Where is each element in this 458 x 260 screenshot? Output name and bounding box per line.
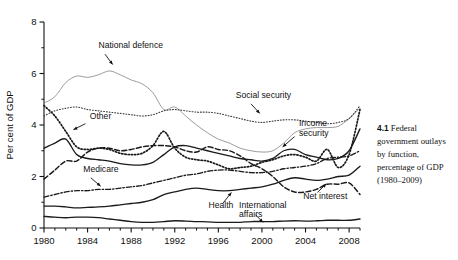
series-annotation-medicare: Medicare	[83, 164, 119, 174]
y-tick-label: 2	[31, 171, 36, 182]
y-tick-label: 0	[31, 222, 36, 233]
series-annotation-international-affairs: Internationalaffairs	[239, 200, 286, 219]
x-tick-label: 1992	[164, 235, 185, 246]
series-line-international-affairs	[44, 216, 360, 222]
series-annotation-national-defence: National defence	[98, 40, 163, 50]
chart-plot-area: 0246819801984198819921996200020042008Per…	[0, 0, 372, 260]
x-tick-label: 2004	[295, 235, 316, 246]
figure-container: 0246819801984198819921996200020042008Per…	[0, 0, 458, 260]
series-annotation-net-interest: Net interest	[303, 191, 348, 201]
x-tick-label: 1996	[208, 235, 229, 246]
series-label: Medicare	[83, 164, 119, 174]
series-annotation-other: Other	[90, 111, 112, 121]
series-label: National defence	[98, 40, 163, 50]
x-tick-label: 1980	[33, 235, 54, 246]
y-axis-title: Per cent of GDP	[4, 90, 15, 159]
series-annotation-health: Health	[209, 200, 234, 210]
y-tick-label: 8	[31, 16, 36, 27]
x-tick-label: 1988	[121, 235, 142, 246]
x-tick-label: 2008	[339, 235, 360, 246]
caption-number: 4.1	[377, 123, 389, 133]
series-label: Net interest	[303, 191, 348, 201]
x-tick-label: 2000	[251, 235, 272, 246]
x-tick-label: 1984	[77, 235, 98, 246]
series-label: security	[299, 128, 329, 138]
series-label: Health	[209, 200, 234, 210]
y-tick-label: 4	[31, 119, 36, 130]
series-annotation-income-security: Incomesecurity	[299, 118, 329, 137]
series-label: Social security	[236, 90, 292, 100]
series-label: Other	[90, 111, 112, 121]
line-chart: 0246819801984198819921996200020042008Per…	[0, 0, 372, 260]
figure-caption: 4.1 Federal government outlays by functi…	[377, 122, 455, 187]
y-tick-label: 6	[31, 68, 36, 79]
series-annotation-social-security: Social security	[236, 90, 292, 100]
